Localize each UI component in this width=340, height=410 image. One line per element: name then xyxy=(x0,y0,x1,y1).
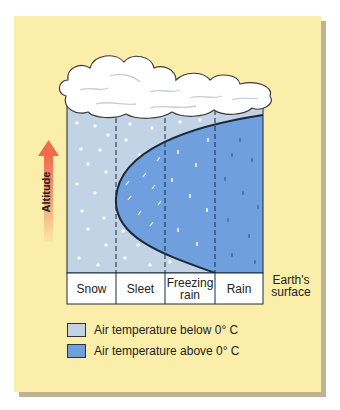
column-label-rain: Rain xyxy=(215,273,263,304)
altitude-label: Altitude xyxy=(40,167,52,217)
legend-item-above-zero: Air temperature above 0° C xyxy=(67,344,240,358)
column-label-snow: Snow xyxy=(67,273,116,304)
legend-label-above-zero: Air temperature above 0° C xyxy=(94,344,240,358)
earth-surface-label: Earth's surface xyxy=(267,274,315,298)
legend-swatch-cold xyxy=(67,323,86,337)
legend-item-below-zero: Air temperature below 0° C xyxy=(67,323,238,337)
legend-label-below-zero: Air temperature below 0° C xyxy=(94,323,238,337)
column-label-sleet: Sleet xyxy=(116,273,165,304)
legend-swatch-warm xyxy=(67,344,86,358)
cloud-icon xyxy=(59,56,271,119)
column-label-freezing-rain: Freezing rain xyxy=(165,273,215,304)
